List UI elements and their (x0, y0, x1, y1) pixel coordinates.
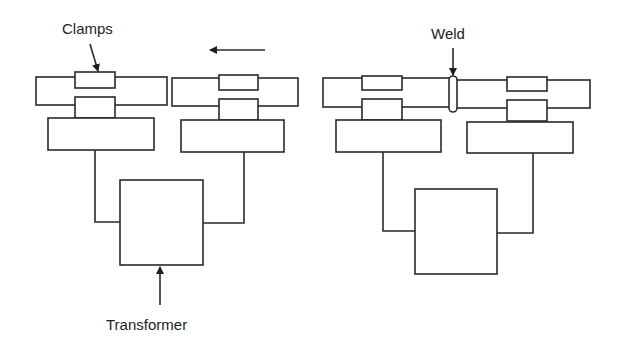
transformer-box (415, 189, 497, 274)
welding-diagram: Clamps Transformer Weld (0, 0, 634, 353)
platen-right (181, 120, 284, 152)
panel-before: Clamps Transformer (36, 20, 298, 333)
wire-left (383, 152, 415, 231)
wire-right (497, 153, 533, 233)
platen-right (467, 122, 573, 153)
wire-left (95, 150, 120, 222)
clamp-top-left (75, 72, 115, 88)
platen-left (336, 120, 441, 152)
platen-left (48, 118, 154, 150)
clamps-label: Clamps (62, 20, 113, 37)
clamp-bottom-right (507, 100, 547, 121)
wire-right (203, 152, 244, 223)
clamps-pointer-arrow-icon (90, 44, 98, 71)
clamp-top-right (219, 75, 258, 90)
weld-bead (449, 76, 457, 112)
clamp-top-left (362, 76, 402, 90)
transformer-box (120, 180, 203, 265)
clamp-bottom-right (219, 99, 258, 120)
transformer-label: Transformer (106, 316, 187, 333)
clamp-bottom-left (75, 97, 115, 118)
clamp-bottom-left (362, 99, 402, 120)
clamp-top-right (507, 77, 547, 91)
panel-after: Weld (323, 25, 590, 274)
weld-label: Weld (431, 25, 465, 42)
